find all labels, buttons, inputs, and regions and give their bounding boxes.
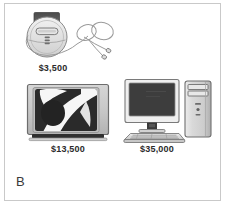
portable-cd-player-with-headphones-icon: [22, 11, 124, 61]
computer-price-label: $35,000: [122, 144, 192, 154]
television-set-icon: [26, 83, 110, 141]
figure-panel: $3,500: [0, 0, 226, 206]
television-price-label: $13,500: [26, 144, 110, 154]
panel-letter: B: [16, 174, 25, 189]
desktop-computer-system-icon: [122, 78, 214, 142]
cd-player-price-label: $3,500: [22, 63, 84, 73]
